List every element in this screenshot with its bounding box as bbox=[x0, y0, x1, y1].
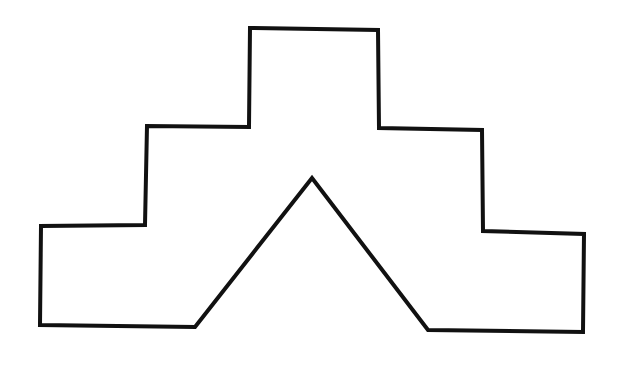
figure-canvas bbox=[0, 0, 621, 369]
stepped-polygon-outline bbox=[40, 28, 584, 332]
